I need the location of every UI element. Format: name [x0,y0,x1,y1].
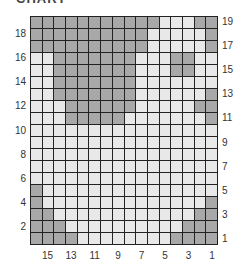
grid-cell [171,209,182,220]
grid-cell [206,101,217,112]
grid-cell [54,137,65,148]
grid-cell [43,53,54,64]
row-label-left: 16 [6,52,26,63]
grid-cell [89,185,100,196]
grid-cell [171,77,182,88]
grid-cell [31,113,42,124]
grid-cell [54,233,65,244]
grid-cell [101,185,112,196]
grid-cell [125,17,136,28]
grid-cell [160,89,171,100]
row-label-right: 5 [222,185,238,196]
grid-cell [160,209,171,220]
grid-cell [78,161,89,172]
grid-cell [113,197,124,208]
grid-cell [31,77,42,88]
grid-cell [136,113,147,124]
grid-cell [171,53,182,64]
grid-cell [171,185,182,196]
grid-cell [195,161,206,172]
grid-cell [148,197,159,208]
grid-cell [113,101,124,112]
grid-cell [195,125,206,136]
grid-cell [160,101,171,112]
grid-cell [101,29,112,40]
grid-cell [136,89,147,100]
grid-cell [89,77,100,88]
grid-cell [183,173,194,184]
grid-cell [171,113,182,124]
row-label-right: 15 [222,64,238,75]
grid-cell [183,29,194,40]
grid-cell [171,29,182,40]
grid-cell [125,185,136,196]
grid-cell [101,161,112,172]
grid-cell [136,185,147,196]
column-label: 5 [155,250,175,261]
grid-cell [171,125,182,136]
grid-cell [136,53,147,64]
grid-cell [206,149,217,160]
grid-cell [113,77,124,88]
grid-cell [160,173,171,184]
grid-cell [171,161,182,172]
grid-cell [78,233,89,244]
grid-cell [43,113,54,124]
grid-cell [160,53,171,64]
grid-cell [136,137,147,148]
grid-cell [195,185,206,196]
grid-cell [101,209,112,220]
grid-cell [125,101,136,112]
grid-cell [43,89,54,100]
grid-cell [54,89,65,100]
grid-cell [148,149,159,160]
grid-cell [89,149,100,160]
grid-cell [195,41,206,52]
grid-cell [183,65,194,76]
grid-cell [183,161,194,172]
grid-cell [206,137,217,148]
grid-cell [89,137,100,148]
grid-cell [160,161,171,172]
grid-cell [160,125,171,136]
grid-cell [78,185,89,196]
grid-cell [125,53,136,64]
grid-cell [206,65,217,76]
grid-cell [66,221,77,232]
grid-cell [101,17,112,28]
grid-cell [148,233,159,244]
grid-cell [43,185,54,196]
grid-cell [171,221,182,232]
grid-cell [89,89,100,100]
grid-cell [195,101,206,112]
grid-cell [160,137,171,148]
grid-cell [160,197,171,208]
grid-cell [78,77,89,88]
grid-cell [160,221,171,232]
grid-cell [160,185,171,196]
grid-cell [136,65,147,76]
column-label: 13 [61,250,81,261]
grid-cell [148,161,159,172]
grid-cell [78,209,89,220]
grid-cell [89,53,100,64]
grid-cell [195,233,206,244]
grid-cell [31,137,42,148]
grid-cell [78,17,89,28]
grid-cell [125,209,136,220]
grid-cell [195,149,206,160]
grid-cell [54,221,65,232]
knitting-chart-grid [30,16,218,245]
grid-cell [148,41,159,52]
grid-cell [183,221,194,232]
grid-cell [136,161,147,172]
grid-cell [31,41,42,52]
grid-cell [31,221,42,232]
grid-cell [113,173,124,184]
grid-cell [125,161,136,172]
grid-cell [43,197,54,208]
grid-cell [43,125,54,136]
grid-cell [125,113,136,124]
grid-cell [113,185,124,196]
grid-cell [66,209,77,220]
